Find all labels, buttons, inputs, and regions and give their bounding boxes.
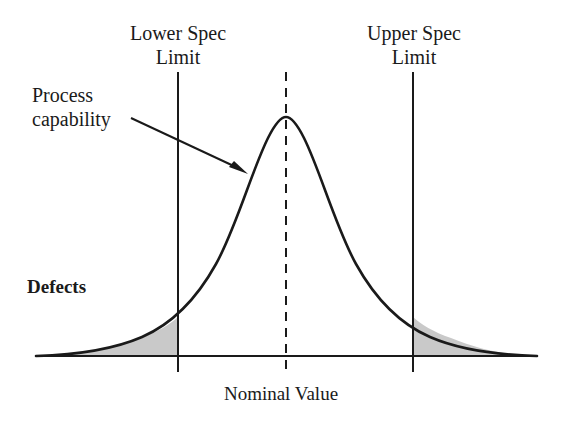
process-capability-label: Process capability	[32, 84, 162, 131]
lower-spec-limit-label: Lower Spec Limit	[103, 22, 253, 69]
process-capability-arrowhead-icon	[229, 161, 248, 174]
process-capability-figure: Lower Spec Limit Upper Spec Limit Proces…	[0, 0, 561, 424]
nominal-value-axis-label: Nominal Value	[181, 383, 381, 405]
upper-spec-limit-label: Upper Spec Limit	[339, 22, 489, 69]
defects-label: Defects	[27, 276, 86, 298]
left-defect-tail-region	[36, 317, 178, 356]
